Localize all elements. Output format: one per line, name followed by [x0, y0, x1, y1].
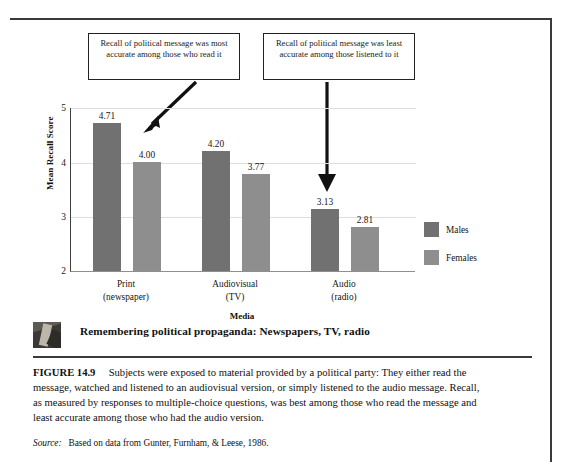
value-label-males-audio: 3.13 [317, 197, 333, 207]
gridline-4 [71, 163, 416, 164]
callout-read-annotation: Recall of political message was most acc… [88, 33, 240, 80]
x-group-label-print: Print (newspaper) [103, 278, 149, 303]
x-group-label-audio-line2: (radio) [331, 291, 356, 304]
bar-males-print [93, 123, 121, 271]
bar-males-audio [311, 209, 339, 271]
value-label-males-av: 4.20 [208, 139, 224, 149]
horizontal-rule [33, 356, 532, 358]
x-group-label-audio-line1: Audio [331, 278, 356, 291]
plot-wrap: 5 4 3 2 4.71 4.00 4.20 3.77 3.13 2.81 [70, 108, 415, 272]
legend-item-males: Males [424, 222, 477, 237]
x-group-label-audio: Audio (radio) [331, 278, 356, 303]
figure-number: FIGURE 14.9 [33, 367, 106, 378]
source-line: Source: Based on data from Gunter, Furnh… [33, 438, 269, 448]
bar-females-print [133, 162, 161, 271]
gridline-5 [71, 108, 416, 109]
value-label-males-print: 4.71 [99, 111, 115, 121]
source-label: Source: [33, 438, 66, 448]
legend-swatch-males-icon [424, 222, 439, 237]
x-group-label-print-line1: Print [103, 278, 149, 291]
thumbnail-caption: Remembering political propaganda: Newspa… [80, 325, 370, 337]
legend-swatch-females-icon [424, 250, 439, 265]
y-tick-5: 5 [61, 103, 66, 113]
value-label-females-audio: 2.81 [357, 215, 373, 225]
plot-area: 5 4 3 2 4.71 4.00 4.20 3.77 3.13 2.81 [70, 108, 415, 272]
y-axis-label: Mean Recall Score [45, 116, 55, 190]
legend-item-females: Females [424, 250, 477, 265]
y-tick-2: 2 [61, 266, 66, 276]
y-tick-3: 3 [61, 212, 66, 222]
source-text: Based on data from Gunter, Furnham, & Le… [69, 438, 269, 448]
figure-caption: FIGURE 14.9 Subjects were exposed to mat… [33, 365, 488, 425]
bar-females-av [242, 174, 270, 271]
legend-label-females: Females [446, 253, 477, 263]
y-tick-4: 4 [61, 158, 66, 168]
chart-legend: Males Females [424, 222, 477, 278]
legend-label-males: Males [446, 225, 469, 235]
x-group-label-audiovisual-line2: (TV) [212, 291, 257, 304]
x-group-label-audiovisual-line1: Audiovisual [212, 278, 257, 291]
thumbnail-strip: Remembering political propaganda: Newspa… [33, 320, 533, 356]
x-group-label-print-line2: (newspaper) [103, 291, 149, 304]
x-group-label-audiovisual: Audiovisual (TV) [212, 278, 257, 303]
bar-males-av [202, 151, 230, 271]
value-label-females-print: 4.00 [139, 150, 155, 160]
bar-females-audio [351, 227, 379, 271]
figure-14-9: Recall of political message was most acc… [0, 0, 573, 470]
callout-listen-annotation: Recall of political message was least ac… [263, 33, 415, 80]
photo-thumbnail-icon [33, 322, 61, 348]
value-label-females-av: 3.77 [248, 162, 264, 172]
